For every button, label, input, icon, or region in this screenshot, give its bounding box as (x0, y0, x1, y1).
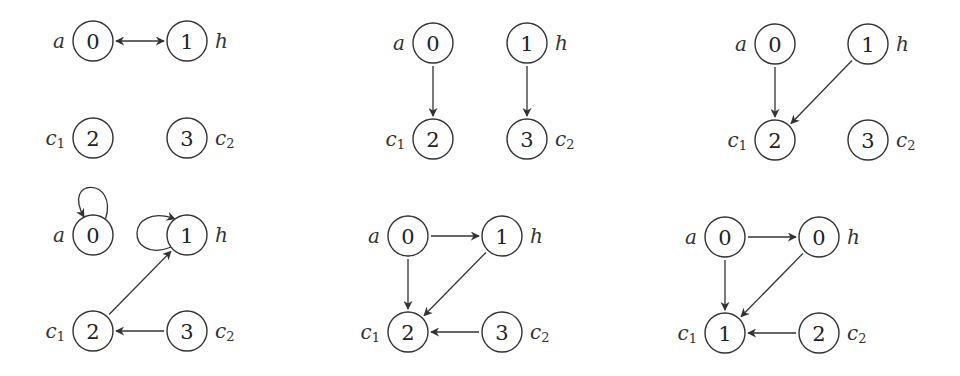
node-value: 3 (861, 129, 874, 153)
node-a: 0a (735, 24, 795, 64)
node-label-subscript: 1 (739, 138, 747, 153)
edge-c1-to-h (109, 251, 171, 314)
node-label-main: c (386, 127, 397, 151)
node-value: 2 (768, 129, 781, 153)
node-a: 0a (393, 23, 453, 63)
node-h: 1h (167, 21, 228, 61)
node-value: 2 (426, 128, 439, 152)
node-value: 2 (401, 321, 414, 345)
node-c2: 3c2 (507, 119, 574, 159)
node-label-main: a (368, 224, 380, 248)
node-label-main: h (215, 29, 228, 53)
node-label: h (530, 224, 543, 248)
node-label-subscript: 2 (858, 331, 866, 346)
node-a: 0a (368, 216, 428, 256)
node-label-main: a (53, 29, 65, 53)
node-value: 2 (86, 127, 99, 151)
node-label: h (215, 223, 228, 247)
node-label: c1 (728, 128, 747, 153)
node-label-main: a (393, 31, 405, 55)
node-value: 2 (812, 322, 825, 346)
node-label-main: c (555, 127, 566, 151)
node-value: 1 (718, 322, 731, 346)
node-value: 1 (520, 32, 533, 56)
node-label: c2 (896, 128, 915, 153)
node-label-main: a (735, 32, 747, 56)
node-label-subscript: 2 (566, 137, 574, 152)
node-label: c2 (847, 321, 866, 346)
node-label-main: a (685, 225, 697, 249)
node-label: a (393, 31, 405, 55)
node-label: h (896, 32, 909, 56)
node-label: a (368, 224, 380, 248)
node-c1: 2c1 (386, 119, 453, 159)
node-label-subscript: 2 (226, 329, 234, 344)
node-c1: 2c1 (361, 312, 428, 352)
node-h: 0h (799, 217, 860, 257)
node-label-main: c (46, 126, 57, 150)
node-label: c1 (386, 127, 405, 152)
node-label: c1 (46, 319, 65, 344)
graph-panel-p6: 0a0h1c12c2 (678, 217, 867, 353)
node-label: c2 (555, 127, 574, 152)
node-label-main: c (361, 320, 372, 344)
node-label: c1 (678, 321, 697, 346)
graph-panels: 0a1h2c13c20a1h2c13c20a1h2c13c20a1h2c13c2… (46, 21, 916, 353)
node-label: c1 (361, 320, 380, 345)
node-label-subscript: 1 (397, 137, 405, 152)
node-c1: 1c1 (678, 313, 745, 353)
node-label: c2 (215, 319, 234, 344)
node-label-main: c (678, 321, 689, 345)
node-h: 1h (507, 23, 568, 63)
node-a: 0a (53, 215, 113, 255)
node-value: 3 (180, 320, 193, 344)
graph-panel-p1: 0a1h2c13c2 (46, 21, 235, 158)
node-label: h (847, 225, 860, 249)
node-label: a (735, 32, 747, 56)
edge-h-to-c1 (791, 61, 852, 124)
node-c2: 2c2 (799, 313, 866, 353)
node-c1: 2c1 (46, 311, 113, 351)
graph-panel-p5: 0a1h2c13c2 (361, 216, 550, 352)
edges (79, 187, 175, 331)
node-value: 1 (180, 30, 193, 54)
node-c2: 3c2 (482, 312, 549, 352)
node-c1: 2c1 (46, 118, 113, 158)
graph-figure: 0a1h2c13c20a1h2c13c20a1h2c13c20a1h2c13c2… (0, 0, 960, 376)
node-label: c1 (46, 126, 65, 151)
node-label-main: c (215, 126, 226, 150)
node-value: 1 (180, 224, 193, 248)
node-label: a (53, 223, 65, 247)
node-label-main: h (215, 223, 228, 247)
node-label-main: c (530, 320, 541, 344)
node-value: 0 (401, 225, 414, 249)
node-label: c2 (215, 126, 234, 151)
node-label-main: c (46, 319, 57, 343)
node-h: 1h (482, 216, 543, 256)
node-c2: 3c2 (167, 311, 234, 351)
node-c2: 3c2 (848, 120, 915, 160)
node-label-main: h (896, 32, 909, 56)
edge-h-to-c1 (741, 253, 803, 316)
node-label-main: h (530, 224, 543, 248)
node-label-main: c (896, 128, 907, 152)
node-c1: 2c1 (728, 120, 795, 160)
node-label-main: c (847, 321, 858, 345)
node-value: 1 (495, 225, 508, 249)
node-value: 0 (86, 30, 99, 54)
node-value: 3 (180, 127, 193, 151)
node-label-subscript: 2 (907, 138, 915, 153)
node-label-main: h (847, 225, 860, 249)
node-label-main: c (728, 128, 739, 152)
node-label: h (555, 31, 568, 55)
node-value: 0 (718, 226, 731, 250)
node-value: 0 (426, 32, 439, 56)
node-h: 1h (167, 215, 228, 255)
edge-h-to-c1 (424, 252, 486, 315)
node-value: 0 (812, 226, 825, 250)
node-h: 1h (848, 24, 909, 64)
node-label-main: c (215, 319, 226, 343)
node-label: a (685, 225, 697, 249)
node-label: a (53, 29, 65, 53)
node-a: 0a (685, 217, 745, 257)
